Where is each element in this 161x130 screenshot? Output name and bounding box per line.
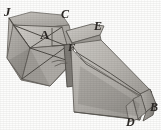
label-d: D <box>126 116 135 128</box>
label-b: B <box>150 101 158 113</box>
label-c: C <box>61 8 69 20</box>
figure-canvas: J C A E F B D <box>0 0 161 130</box>
label-a: A <box>40 28 49 41</box>
label-f: F <box>68 42 75 53</box>
label-e: E <box>94 20 102 32</box>
folded-paper-illustration <box>0 0 161 130</box>
label-j: J <box>4 5 11 18</box>
